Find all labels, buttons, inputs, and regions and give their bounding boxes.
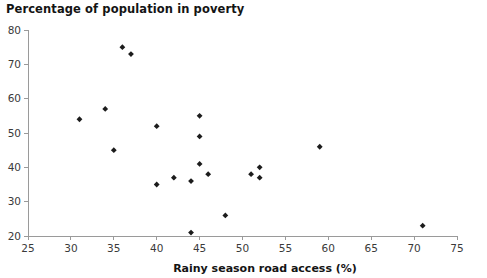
- y-tick-label: 80: [8, 24, 21, 36]
- data-point-marker: [197, 113, 203, 119]
- data-point-marker: [111, 147, 117, 153]
- data-points: [77, 44, 426, 235]
- data-point-marker: [317, 144, 323, 150]
- data-point-marker: [154, 182, 160, 188]
- data-point-marker: [257, 175, 263, 181]
- data-point-marker: [188, 178, 194, 184]
- x-tick-label: 40: [150, 242, 163, 254]
- x-tick-label: 50: [236, 242, 249, 254]
- y-tick-label: 70: [8, 58, 21, 70]
- x-tick-label: 45: [193, 242, 206, 254]
- data-point-marker: [119, 44, 125, 50]
- data-point-marker: [257, 164, 263, 170]
- x-axis-title: Rainy season road access (%): [173, 262, 357, 275]
- x-tick-label: 60: [322, 242, 335, 254]
- data-point-marker: [222, 213, 228, 219]
- x-tick-label: 25: [21, 242, 34, 254]
- x-tick-label: 70: [407, 242, 420, 254]
- data-point-marker: [205, 171, 211, 177]
- x-tick-label: 30: [64, 242, 77, 254]
- x-tick-label: 75: [450, 242, 463, 254]
- plot-area: 20304050607080 2530354045505560657075 Ra…: [0, 0, 487, 278]
- y-axis: 20304050607080: [8, 24, 28, 242]
- y-tick-label: 20: [8, 230, 21, 242]
- x-tick-label: 65: [365, 242, 378, 254]
- x-axis: 2530354045505560657075: [21, 236, 463, 254]
- y-tick-label: 30: [8, 195, 21, 207]
- data-point-marker: [171, 175, 177, 181]
- x-tick-label: 35: [107, 242, 120, 254]
- data-point-marker: [128, 51, 134, 57]
- x-tick-label: 55: [279, 242, 292, 254]
- data-point-marker: [154, 123, 160, 129]
- y-tick-label: 50: [8, 127, 21, 139]
- data-point-marker: [248, 171, 254, 177]
- scatter-chart: Percentage of population in poverty 2030…: [0, 0, 487, 278]
- data-point-marker: [197, 161, 203, 167]
- y-tick-label: 40: [8, 161, 21, 173]
- data-point-marker: [77, 116, 83, 122]
- data-point-marker: [197, 134, 203, 140]
- data-point-marker: [102, 106, 108, 112]
- data-point-marker: [188, 230, 194, 236]
- y-tick-label: 60: [8, 92, 21, 104]
- data-point-marker: [420, 223, 426, 229]
